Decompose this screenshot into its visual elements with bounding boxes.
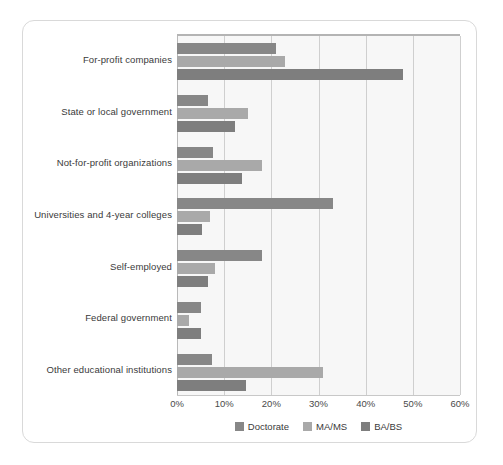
bar-group — [177, 191, 460, 243]
legend-item[interactable]: BA/BS — [361, 421, 402, 432]
bar-doctorate — [177, 302, 201, 313]
grouped-bar-chart: For-profit companiesState or local gover… — [0, 0, 503, 465]
bar-ma-ms — [177, 160, 262, 171]
legend-swatch-icon — [303, 422, 312, 431]
chart-page: For-profit companiesState or local gover… — [0, 0, 503, 465]
x-tick-label: 40% — [356, 398, 375, 409]
bar-group — [177, 139, 460, 191]
bar-group — [177, 243, 460, 295]
legend-label: BA/BS — [374, 421, 402, 432]
x-tick-label: 60% — [450, 398, 469, 409]
category-label: Other educational institutions — [4, 364, 172, 375]
bar-ba-bs — [177, 276, 208, 287]
bar-ba-bs — [177, 224, 202, 235]
category-label: Federal government — [4, 312, 172, 323]
x-tick-label: 30% — [309, 398, 328, 409]
bar-group — [177, 295, 460, 347]
category-label: Not-for-profit organizations — [4, 157, 172, 168]
legend-item[interactable]: Doctorate — [235, 421, 289, 432]
category-axis-labels: For-profit companiesState or local gover… — [0, 34, 172, 396]
bar-group — [177, 346, 460, 398]
bar-rows — [177, 36, 460, 395]
bar-ba-bs — [177, 69, 403, 80]
category-label: For-profit companies — [4, 54, 172, 65]
bar-ma-ms — [177, 211, 210, 222]
category-label: Universities and 4-year colleges — [4, 209, 172, 220]
bar-group — [177, 36, 460, 88]
bar-ba-bs — [177, 121, 235, 132]
bar-ma-ms — [177, 108, 248, 119]
x-tick-label: 10% — [215, 398, 234, 409]
plot-area — [177, 34, 460, 396]
x-tick-label: 50% — [403, 398, 422, 409]
x-tick-label: 20% — [262, 398, 281, 409]
category-label: State or local government — [4, 106, 172, 117]
bar-ma-ms — [177, 367, 323, 378]
bar-ma-ms — [177, 315, 189, 326]
x-axis: 0%10%20%30%40%50%60% — [177, 398, 460, 414]
bar-doctorate — [177, 43, 276, 54]
chart-legend: DoctorateMA/MSBA/BS — [177, 418, 460, 434]
legend-swatch-icon — [235, 422, 244, 431]
bar-ba-bs — [177, 173, 242, 184]
bar-doctorate — [177, 147, 213, 158]
bar-ma-ms — [177, 56, 285, 67]
category-label: Self-employed — [4, 261, 172, 272]
legend-item[interactable]: MA/MS — [303, 421, 347, 432]
legend-label: Doctorate — [248, 421, 289, 432]
legend-swatch-icon — [361, 422, 370, 431]
bar-ba-bs — [177, 328, 201, 339]
bar-ma-ms — [177, 263, 215, 274]
x-tick-label: 0% — [170, 398, 184, 409]
bar-group — [177, 88, 460, 140]
legend-label: MA/MS — [316, 421, 347, 432]
bar-doctorate — [177, 250, 262, 261]
gridline-60% — [460, 36, 461, 395]
bar-doctorate — [177, 198, 333, 209]
bar-ba-bs — [177, 380, 246, 391]
bar-doctorate — [177, 354, 212, 365]
bar-doctorate — [177, 95, 208, 106]
